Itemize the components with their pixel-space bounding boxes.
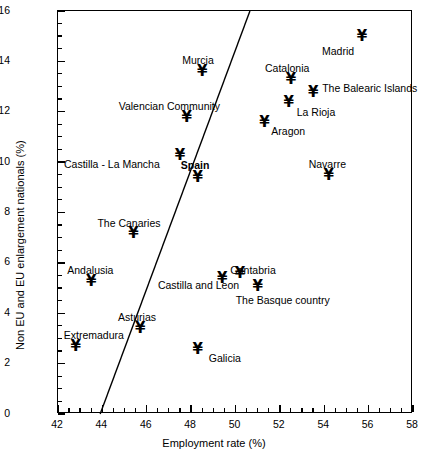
y-tick-minor xyxy=(58,401,62,402)
x-tick-label: 58 xyxy=(406,419,418,430)
x-tick-minor xyxy=(202,408,203,412)
data-point-marker: ¥ xyxy=(197,64,207,79)
x-tick-minor xyxy=(401,408,402,412)
y-tick-major xyxy=(58,10,65,11)
x-tick-minor xyxy=(379,408,380,412)
data-point-label: Andalusia xyxy=(67,265,113,276)
y-tick-minor xyxy=(58,73,62,74)
y-tick-label: 6 xyxy=(4,256,10,267)
x-tick-major xyxy=(279,405,280,412)
data-point-label: Catalonia xyxy=(265,63,309,74)
x-tick-label: 42 xyxy=(51,419,63,430)
y-tick-label: 12 xyxy=(0,105,10,116)
y-tick-minor xyxy=(58,124,62,125)
data-point-label: The Canaries xyxy=(97,218,160,229)
data-point-label: Extremadura xyxy=(64,330,124,341)
x-tick-minor xyxy=(335,408,336,412)
y-tick-major xyxy=(58,313,65,314)
y-tick-major xyxy=(58,212,65,213)
x-tick-minor xyxy=(179,408,180,412)
data-point-marker: ¥ xyxy=(357,29,367,44)
x-tick-major xyxy=(324,405,325,412)
data-point-marker: ¥ xyxy=(193,170,203,185)
data-point-label: Valencian Community xyxy=(119,101,220,112)
y-tick-minor xyxy=(58,35,62,36)
y-tick-minor xyxy=(58,275,62,276)
x-tick-minor xyxy=(91,408,92,412)
x-tick-label: 48 xyxy=(184,419,196,430)
y-tick-label: 16 xyxy=(0,5,10,16)
y-tick-minor xyxy=(58,86,62,87)
y-tick-minor xyxy=(58,224,62,225)
x-tick-minor xyxy=(68,408,69,412)
y-tick-major xyxy=(58,363,65,364)
y-tick-minor xyxy=(58,98,62,99)
x-tick-minor xyxy=(168,408,169,412)
x-tick-major xyxy=(368,405,369,412)
y-tick-major xyxy=(58,413,65,414)
y-tick-minor xyxy=(58,149,62,150)
y-tick-minor xyxy=(58,287,62,288)
y-tick-minor xyxy=(58,199,62,200)
y-tick-major xyxy=(58,61,65,62)
x-tick-major xyxy=(102,405,103,412)
data-point-marker: ¥ xyxy=(217,270,227,285)
data-point-marker: ¥ xyxy=(252,278,262,293)
x-tick-minor xyxy=(390,408,391,412)
y-tick-major xyxy=(58,262,65,263)
y-tick-minor xyxy=(58,338,62,339)
x-tick-minor xyxy=(357,408,358,412)
x-tick-minor xyxy=(113,408,114,412)
y-tick-minor xyxy=(58,23,62,24)
y-tick-major xyxy=(58,111,65,112)
data-point-label: The Balearic Islands xyxy=(322,83,417,94)
x-tick-label: 54 xyxy=(317,419,329,430)
x-tick-minor xyxy=(301,408,302,412)
x-tick-minor xyxy=(135,408,136,412)
x-tick-major xyxy=(57,405,58,412)
y-tick-label: 8 xyxy=(4,206,10,217)
data-point-marker: ¥ xyxy=(193,341,203,356)
x-tick-label: 44 xyxy=(96,419,108,430)
x-axis-title: Employment rate (%) xyxy=(0,437,428,449)
x-tick-major xyxy=(190,405,191,412)
x-tick-minor xyxy=(290,408,291,412)
data-point-label: Spain xyxy=(181,160,210,171)
plot-area: ¥Madrid¥Murcia¥Catalonia¥The Balearic Is… xyxy=(57,10,412,413)
y-tick-label: 14 xyxy=(0,55,10,66)
data-point-label: La Rioja xyxy=(297,107,336,118)
data-point-label: Madrid xyxy=(322,46,354,57)
x-tick-minor xyxy=(157,408,158,412)
data-point-label: Galicia xyxy=(209,353,241,364)
x-tick-label: 52 xyxy=(273,419,285,430)
x-tick-minor xyxy=(346,408,347,412)
x-tick-minor xyxy=(124,408,125,412)
y-tick-minor xyxy=(58,187,62,188)
data-point-label: The Basque country xyxy=(236,295,330,306)
x-tick-label: 46 xyxy=(140,419,152,430)
y-tick-minor xyxy=(58,376,62,377)
x-tick-minor xyxy=(312,408,313,412)
data-point-marker: ¥ xyxy=(284,94,294,109)
y-tick-label: 4 xyxy=(4,307,10,318)
y-tick-label: 2 xyxy=(4,357,10,368)
x-tick-minor xyxy=(224,408,225,412)
y-tick-label: 0 xyxy=(4,408,10,419)
y-tick-minor xyxy=(58,325,62,326)
x-tick-minor xyxy=(79,408,80,412)
y-tick-minor xyxy=(58,250,62,251)
x-tick-major xyxy=(146,405,147,412)
x-tick-label: 50 xyxy=(229,419,241,430)
data-point-label: Murcia xyxy=(182,55,214,66)
y-axis-title: Non EU and EU enlargement nationals (%) xyxy=(14,140,26,350)
data-point-label: Castilla - La Mancha xyxy=(64,159,160,170)
x-tick-minor xyxy=(268,408,269,412)
data-point-marker: ¥ xyxy=(135,321,145,336)
data-point-label: Aragon xyxy=(271,126,305,137)
y-tick-minor xyxy=(58,48,62,49)
data-point-marker: ¥ xyxy=(259,114,269,129)
x-tick-minor xyxy=(257,408,258,412)
x-tick-major xyxy=(412,405,413,412)
y-tick-minor xyxy=(58,174,62,175)
x-tick-label: 56 xyxy=(362,419,374,430)
